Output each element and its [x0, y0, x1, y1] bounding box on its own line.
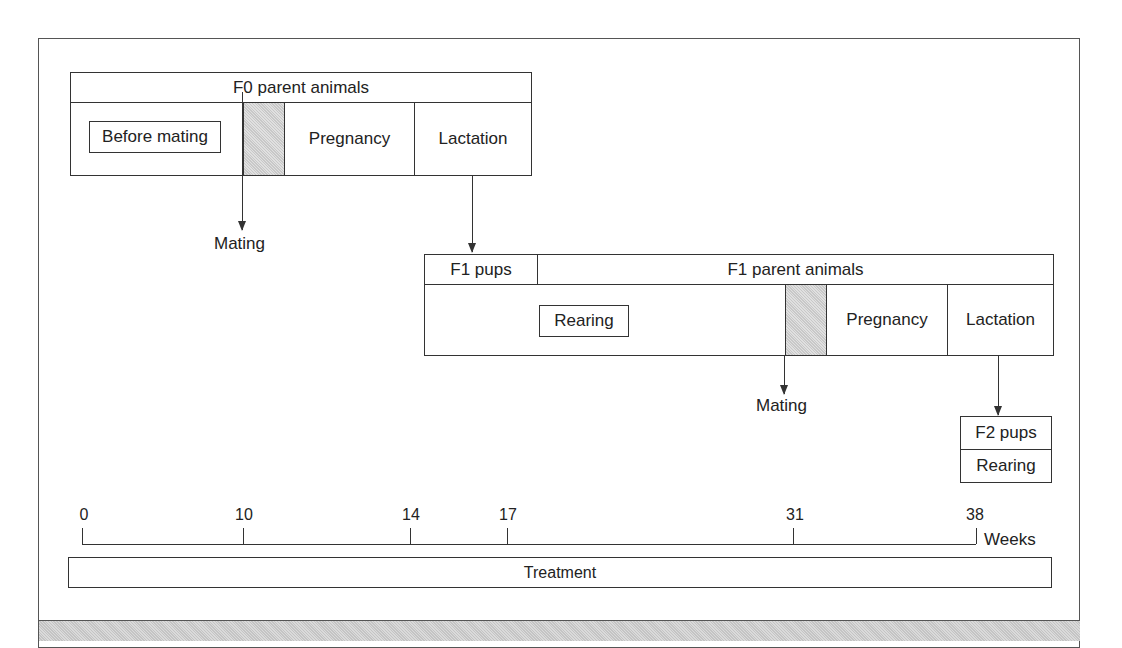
tick-10 — [243, 528, 244, 544]
tick-38 — [976, 528, 977, 544]
f1-pregnancy: Pregnancy — [827, 285, 947, 355]
treatment-bar: Treatment — [68, 557, 1052, 588]
f1-mating-period — [785, 285, 827, 355]
f0-before-mating: Before mating — [89, 121, 221, 153]
bottom-shaded-band — [39, 620, 1080, 641]
timeline-axis — [82, 544, 976, 545]
tick-label-31: 31 — [786, 506, 804, 524]
treatment-label: Treatment — [69, 558, 1051, 587]
f0-to-f1-arrow — [472, 176, 473, 252]
tick-label-17: 17 — [499, 506, 517, 524]
f1-rearing: Rearing — [539, 305, 629, 337]
f1-lactation: Lactation — [948, 285, 1053, 355]
tick-14 — [410, 528, 411, 544]
f0-pregnancy: Pregnancy — [285, 103, 414, 175]
f0-block: F0 parent animals Before mating Pregnanc… — [70, 72, 532, 176]
tick-label-38: 38 — [966, 506, 984, 524]
f0-mating-period — [243, 103, 285, 175]
f1-mating-label: Mating — [756, 396, 807, 416]
tick-17 — [507, 528, 508, 544]
f1-parent-header: F1 parent animals — [538, 255, 1053, 284]
f0-mating-arrow — [242, 92, 243, 230]
tick-31 — [793, 528, 794, 544]
f2-pups: F2 pups — [961, 417, 1051, 449]
tick-label-10: 10 — [235, 506, 253, 524]
f0-header: F0 parent animals — [71, 73, 531, 103]
f1-mating-arrow — [784, 356, 785, 394]
f1-block: F1 pups F1 parent animals Rearing Pregna… — [424, 254, 1054, 356]
tick-label-14: 14 — [402, 506, 420, 524]
f0-lactation: Lactation — [415, 103, 531, 175]
timeline-unit: Weeks — [984, 530, 1036, 550]
f2-block: F2 pups Rearing — [960, 416, 1052, 483]
tick-0 — [82, 528, 83, 544]
f2-rearing: Rearing — [961, 450, 1051, 482]
f1-pups-header: F1 pups — [425, 255, 537, 284]
tick-label-0: 0 — [80, 506, 89, 524]
f1-to-f2-arrow — [998, 356, 999, 415]
f0-mating-label: Mating — [214, 234, 265, 254]
